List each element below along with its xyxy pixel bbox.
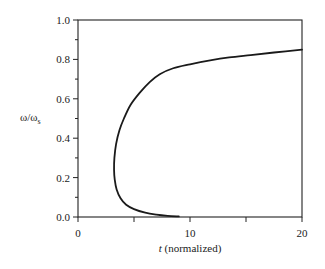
- y-tick-label: 0.6: [56, 93, 70, 105]
- y-axis-ticks: 0.00.20.40.60.81.0: [56, 14, 78, 223]
- plot-frame: [78, 20, 302, 217]
- x-tick-label: 20: [297, 227, 309, 239]
- x-tick-label: 10: [185, 227, 197, 239]
- y-tick-label: 0.8: [56, 53, 70, 65]
- plot-border: [78, 20, 302, 217]
- x-axis-ticks: 01020: [75, 217, 308, 239]
- y-axis-label: ω/ωs: [20, 111, 41, 126]
- chart-canvas: 0.00.20.40.60.81.0 01020 ω/ωs t (normali…: [0, 0, 325, 269]
- y-tick-label: 1.0: [56, 14, 70, 26]
- x-tick-label: 0: [75, 227, 81, 239]
- x-axis-label: t (normalized): [159, 242, 222, 255]
- y-tick-label: 0.0: [56, 211, 70, 223]
- data-curve: [114, 50, 302, 217]
- y-tick-label: 0.4: [56, 132, 70, 144]
- y-tick-label: 0.2: [56, 172, 70, 184]
